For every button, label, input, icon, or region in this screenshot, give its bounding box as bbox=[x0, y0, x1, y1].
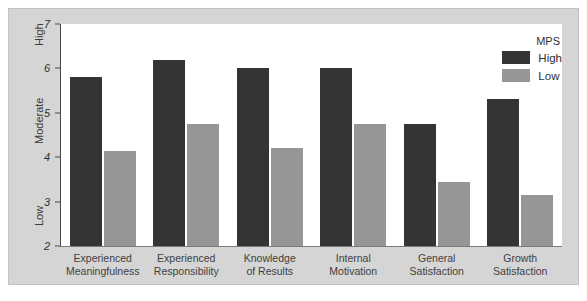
x-axis-category-label: GrowthSatisfaction bbox=[479, 252, 563, 278]
legend: MPS HighLow bbox=[502, 35, 562, 87]
x-axis-category-label-line: Satisfaction bbox=[479, 265, 563, 278]
bar-high[interactable] bbox=[320, 68, 352, 246]
plot-area bbox=[61, 24, 562, 246]
bar-high[interactable] bbox=[153, 60, 185, 246]
y-axis-tick-label: 4 bbox=[16, 151, 50, 163]
chart-figure: HighModerateLow 234567 ExperiencedMeanin… bbox=[8, 8, 579, 285]
x-axis-category-label: ExperiencedMeaningfulness bbox=[61, 252, 145, 278]
bar-low[interactable] bbox=[521, 195, 553, 246]
bar-high[interactable] bbox=[404, 124, 436, 246]
bar-low[interactable] bbox=[438, 182, 470, 246]
x-axis-category-label-line: Responsibility bbox=[145, 265, 229, 278]
x-axis-category-label-line: Experienced bbox=[61, 252, 145, 265]
x-axis-category-label-line: Experienced bbox=[145, 252, 229, 265]
x-axis-category-label: ExperiencedResponsibility bbox=[145, 252, 229, 278]
y-axis-tick-label: 3 bbox=[16, 196, 50, 208]
legend-label: High bbox=[538, 52, 562, 64]
bar-low[interactable] bbox=[271, 148, 303, 246]
legend-label: Low bbox=[538, 70, 559, 82]
legend-entries: HighLow bbox=[502, 51, 562, 82]
x-axis-category-label-line: Growth bbox=[479, 252, 563, 265]
x-axis-category-label-line: General bbox=[395, 252, 479, 265]
y-axis-tick-label: 6 bbox=[16, 62, 50, 74]
x-axis-category-label: InternalMotivation bbox=[312, 252, 396, 278]
bar-high[interactable] bbox=[70, 77, 102, 246]
x-axis-category-label-line: Satisfaction bbox=[395, 265, 479, 278]
x-axis-category-label: Knowledgeof Results bbox=[228, 252, 312, 278]
x-axis-line bbox=[60, 246, 562, 247]
y-axis-band-label-text: Low bbox=[33, 206, 45, 226]
y-axis-tick-label: 5 bbox=[16, 107, 50, 119]
x-axis-category-label-line: Meaningfulness bbox=[61, 265, 145, 278]
bar-low[interactable] bbox=[104, 151, 136, 246]
bar-low[interactable] bbox=[354, 124, 386, 246]
x-axis-category-label-line: Internal bbox=[312, 252, 396, 265]
x-axis-category-label-line: Motivation bbox=[312, 265, 396, 278]
legend-entry[interactable]: Low bbox=[502, 69, 562, 82]
x-axis-category-label: GeneralSatisfaction bbox=[395, 252, 479, 278]
legend-title: MPS bbox=[502, 35, 562, 47]
x-axis-category-label-line: of Results bbox=[228, 265, 312, 278]
legend-swatch bbox=[502, 69, 530, 82]
bar-high[interactable] bbox=[487, 99, 519, 246]
x-axis-category-label-line: Knowledge bbox=[228, 252, 312, 265]
y-axis-band-label-text: Moderate bbox=[33, 97, 45, 143]
y-axis-tick-label: 2 bbox=[16, 240, 50, 252]
legend-entry[interactable]: High bbox=[502, 51, 562, 64]
bar-high[interactable] bbox=[237, 68, 269, 246]
bar-low[interactable] bbox=[187, 124, 219, 246]
y-axis-tick-label: 7 bbox=[16, 18, 50, 30]
legend-swatch bbox=[502, 51, 530, 64]
